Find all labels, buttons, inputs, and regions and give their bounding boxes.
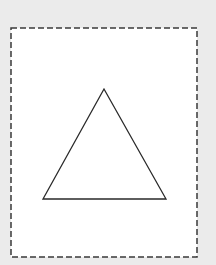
diagram-canvas [0,0,216,265]
